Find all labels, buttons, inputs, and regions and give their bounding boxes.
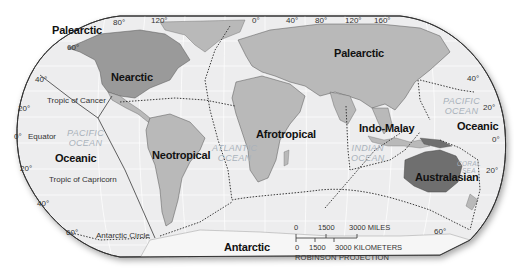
ocean-label-pacific-west: PACIFIC OCEAN: [67, 128, 104, 148]
antarctic-circle-label: Antarctic Circle: [96, 232, 150, 240]
realm-label-neotropical: Neotropical: [152, 150, 210, 161]
realm-label-antarctic: Antarctic: [224, 242, 270, 253]
lon-label-40e: 40°: [286, 17, 298, 25]
realm-label-indo-malay: Indo-Malay: [359, 123, 414, 134]
realm-label-nearctic: Nearctic: [111, 72, 153, 83]
lat-label-left-20n: 20°: [18, 105, 30, 113]
lat-label-right-60s: 60°: [434, 228, 446, 236]
lat-label-left-60n: 60°: [67, 44, 79, 52]
lat-label-left-40s: 40°: [37, 200, 49, 208]
ocean-label-pacific-east: PACIFIC OCEAN: [443, 96, 480, 116]
biogeographic-realms-map: Palearctic Palearctic Nearctic Neotropic…: [0, 0, 514, 272]
ocean-label-atlantic: ATLANTIC OCEAN: [212, 143, 257, 163]
tropic-of-capricorn-label: Tropic of Capricorn: [49, 176, 117, 184]
lon-label-80w: 80°: [113, 19, 125, 27]
lat-label-right-0: 0°: [492, 136, 500, 144]
lat-label-left-60s: 60°: [66, 229, 78, 237]
ocean-label-coral-sea: CORAL SEA: [457, 160, 481, 174]
scale-km-0: 0: [295, 244, 299, 252]
scale-km-3000: 3000 KILOMETERS: [335, 244, 402, 252]
ocean-label-indian: INDIAN OCEAN: [351, 143, 385, 163]
equator-label: Equator: [28, 133, 56, 141]
lat-label-left-40n: 40°: [35, 76, 47, 84]
scale-km-1500: 1500: [309, 244, 326, 252]
realm-label-palearctic-west: Palearctic: [52, 25, 102, 36]
scale-miles-1500: 1500: [318, 224, 335, 232]
realm-label-oceanic-east: Oceanic: [457, 121, 498, 132]
scale-miles-0: 0: [294, 224, 298, 232]
lon-label-0: 0°: [252, 17, 260, 25]
lon-label-120e: 120°: [345, 17, 362, 25]
lat-label-right-20n: 20°: [483, 104, 495, 112]
scale-miles-3000: 3000 MILES: [349, 224, 390, 232]
lon-label-160e: 160°: [374, 17, 391, 25]
lat-label-left-0: 0°: [14, 133, 22, 141]
lon-label-120w: 120°: [151, 17, 168, 25]
lon-label-80e: 80°: [315, 17, 327, 25]
lat-label-right-40n: 40°: [467, 75, 479, 83]
tropic-of-cancer-label: Tropic of Cancer: [47, 97, 106, 105]
lat-label-right-20s: 20°: [486, 167, 498, 175]
realm-label-oceanic-west: Oceanic: [55, 153, 96, 164]
lat-label-left-20s: 20°: [20, 165, 32, 173]
realm-label-afrotropical: Afrotropical: [256, 129, 316, 140]
realm-label-palearctic-east: Palearctic: [334, 48, 384, 59]
projection-label: ROBINSON PROJECTION: [295, 254, 389, 262]
